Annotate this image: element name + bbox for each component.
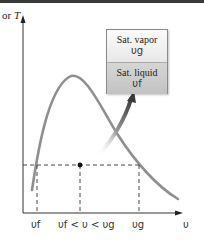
x-axis-arrow-icon xyxy=(175,211,183,216)
x-tick-label-vf: υf xyxy=(31,219,40,230)
sat-vapor-panel: Sat. vapor υg xyxy=(107,30,167,62)
y-axis-label: or T xyxy=(2,9,20,21)
saturation-dome-curve xyxy=(32,76,178,199)
sat-vapor-symbol: υg xyxy=(107,45,167,56)
saturation-dome-diagram xyxy=(0,0,204,243)
y-axis-arrow-icon xyxy=(21,15,26,23)
y-axis xyxy=(21,15,26,213)
sat-vapor-label: Sat. vapor xyxy=(107,30,167,45)
saturation-states-box: Sat. vapor υg Sat. liquid υf xyxy=(106,29,168,94)
curved-arrow-icon xyxy=(98,91,136,156)
state-point-marker xyxy=(78,163,83,168)
x-axis-label: υ xyxy=(183,219,189,230)
sat-liquid-symbol: υf xyxy=(107,78,167,89)
x-tick-label-vg: υg xyxy=(132,219,144,230)
x-axis xyxy=(23,211,183,216)
x-tick-label-v-range: υf < υ < υg xyxy=(58,219,115,230)
sat-liquid-label: Sat. liquid xyxy=(107,63,167,78)
sat-liquid-panel: Sat. liquid υf xyxy=(107,62,167,94)
